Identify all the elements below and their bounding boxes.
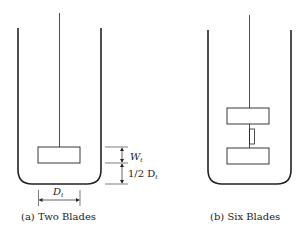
caption-b: (b) Six Blades xyxy=(210,211,280,222)
blade-upper xyxy=(227,108,269,124)
panel-a xyxy=(18,13,128,206)
caption-a: (a) Two Blades xyxy=(21,211,96,222)
blade-a xyxy=(38,147,80,163)
blade-center-edge xyxy=(250,129,255,144)
impeller-diagram: Wt 1/2 Dt Dt (a) Two Blades (b) Six Blad… xyxy=(0,0,307,226)
label-wt: Wt xyxy=(130,151,143,163)
blade-lower xyxy=(227,148,269,164)
panel-b xyxy=(208,15,291,184)
label-clearance: 1/2 Dt xyxy=(128,168,158,180)
label-dt: Dt xyxy=(52,186,64,198)
